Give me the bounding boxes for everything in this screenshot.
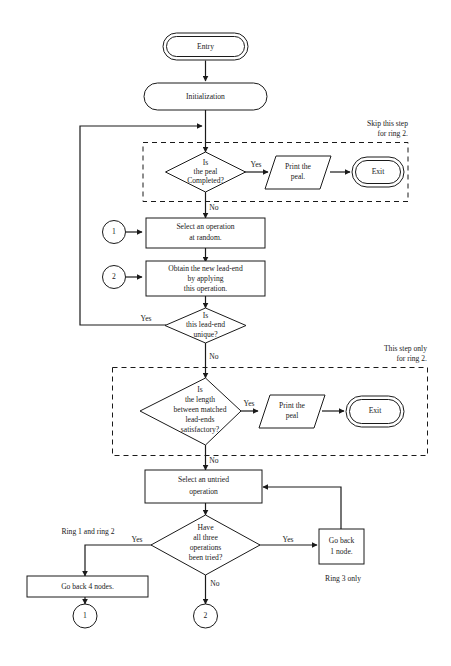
node-decision-length-satisfactory-line1: Is [197, 385, 203, 394]
node-decision-length-satisfactory-line4: lead-ends [185, 415, 214, 424]
node-decision-peal-complete-line1: Is [203, 158, 209, 167]
node-select-operation-random-line2: at random. [189, 233, 222, 242]
node-decision-peal-complete-line3: Completed? [187, 176, 224, 185]
node-obtain-lead-end-line3: this operation. [184, 284, 228, 293]
edge-label-peal-complete-yes: Yes [250, 160, 261, 169]
node-select-untried-operation-line1: Select an untried [178, 475, 229, 484]
flowchart-page: Skip this step for ring 2. This step onl… [0, 0, 451, 666]
node-decision-length-satisfactory-line2: the length [185, 395, 215, 404]
node-print-peal-2-line1: Print the [279, 401, 306, 410]
node-exit-1-label: Exit [372, 167, 386, 176]
node-decision-length-satisfactory[interactable]: Is the length between matched lead-ends … [140, 378, 241, 445]
node-obtain-lead-end-line1: Obtain the new lead-end [168, 264, 243, 273]
connector-out-1[interactable]: 1 [73, 604, 97, 628]
node-decision-all-tried-line1: Have [197, 523, 214, 532]
flowchart-canvas: Skip this step for ring 2. This step onl… [0, 0, 451, 666]
annotation-this-step-line1: This step only [384, 344, 427, 353]
connector-out-2-label: 2 [204, 611, 208, 620]
edge-label-peal-complete-no: No [209, 203, 218, 212]
node-print-peal-1-line1: Print the [285, 162, 312, 171]
connector-out-2[interactable]: 2 [194, 604, 218, 628]
node-initialization[interactable]: Initialization [144, 83, 267, 110]
node-exit-2-label: Exit [369, 406, 383, 415]
annotation-ring-3-only: Ring 3 only [325, 574, 361, 583]
node-go-back-4-nodes-label: Go back 4 nodes. [61, 582, 114, 591]
edge-all-tried-yes-left [85, 545, 152, 576]
node-go-back-1-node[interactable]: Go back 1 node. [319, 529, 364, 564]
node-select-operation-random-line1: Select an operation [176, 222, 234, 231]
edge-go-back-1-node-loop [263, 487, 341, 529]
edge-label-all-tried-yes-left: Yes [131, 535, 142, 544]
edge-label-all-tried-no: No [210, 579, 219, 588]
node-go-back-4-nodes[interactable]: Go back 4 nodes. [27, 576, 148, 597]
edge-label-lead-end-unique-no: No [209, 352, 218, 361]
node-select-untried-operation[interactable]: Select an untried operation [145, 470, 262, 503]
connector-in-2[interactable]: 2 [103, 266, 126, 289]
node-decision-peal-complete[interactable]: Is the peal Completed? [166, 152, 246, 192]
node-print-peal-2[interactable]: Print the peal [259, 395, 325, 428]
node-decision-peal-complete-line2: the peal [194, 167, 218, 176]
node-select-untried-operation-line2: operation [189, 487, 218, 496]
node-obtain-lead-end[interactable]: Obtain the new lead-end by applying this… [146, 261, 265, 296]
node-decision-length-satisfactory-line3: between matched [174, 405, 227, 414]
connector-in-1-label: 1 [112, 227, 116, 236]
node-entry[interactable]: Entry [163, 33, 248, 60]
annotation-skip-step-line2: for ring 2. [377, 129, 408, 138]
annotation-skip-step-line1: Skip this step [367, 119, 408, 128]
node-decision-lead-end-unique-line1: Is [203, 311, 209, 320]
node-go-back-1-node-line1: Go back [329, 536, 355, 545]
connector-in-2-label: 2 [112, 272, 116, 281]
node-print-peal-2-line2: peal [286, 411, 299, 420]
node-decision-lead-end-unique-line3: unique? [193, 330, 218, 339]
node-obtain-lead-end-line2: by applying [187, 274, 223, 283]
edge-label-length-satisfactory-yes: Yes [243, 399, 254, 408]
node-decision-all-tried-line2: all three [193, 533, 218, 542]
node-exit-1[interactable]: Exit [352, 157, 404, 187]
annotation-this-step-line2: for ring 2. [396, 354, 427, 363]
node-initialization-label: Initialization [186, 92, 225, 101]
node-print-peal-1[interactable]: Print the peal. [265, 156, 331, 189]
node-decision-lead-end-unique-line2: this lead-end [186, 320, 225, 329]
node-decision-length-satisfactory-line5: satisfactory? [181, 425, 220, 434]
edge-label-all-tried-yes-right: Yes [282, 535, 293, 544]
node-select-operation-random[interactable]: Select an operation at random. [146, 218, 265, 248]
edge-label-length-satisfactory-no: No [209, 456, 218, 465]
node-decision-all-tried[interactable]: Have all three operations been tried? [151, 515, 260, 575]
node-decision-all-tried-line4: been tried? [189, 553, 223, 562]
node-decision-lead-end-unique[interactable]: Is this lead-end unique? [165, 308, 246, 343]
annotation-ring-1-and-2: Ring 1 and ring 2 [61, 527, 114, 536]
node-exit-2[interactable]: Exit [346, 396, 404, 427]
node-print-peal-1-line2: peal. [291, 172, 306, 181]
connector-in-1[interactable]: 1 [103, 221, 126, 244]
node-decision-all-tried-line3: operations [190, 543, 222, 552]
connector-out-1-label: 1 [83, 611, 87, 620]
node-go-back-1-node-line2: 1 node. [330, 547, 352, 556]
edge-label-lead-end-unique-yes: Yes [140, 314, 151, 323]
node-entry-label: Entry [197, 42, 214, 51]
